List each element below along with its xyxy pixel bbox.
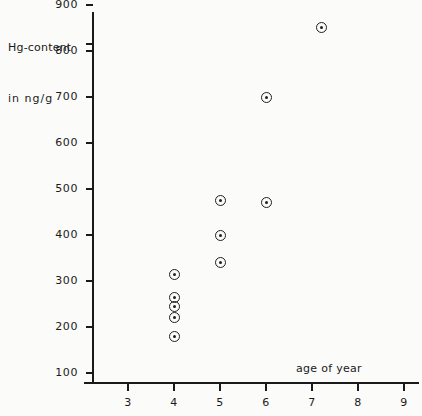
x-tick-8 [357,384,359,391]
data-point [169,312,180,323]
x-tick-label-8: 8 [348,396,368,409]
y-tick-label-600: 600 [34,136,78,149]
data-point [169,269,180,280]
y-tick-700 [86,96,93,98]
x-tick-label-4: 4 [164,396,184,409]
scatter-chart: Hg-content in ng/g age of year 100200300… [0,0,422,416]
y-tick-label-500: 500 [34,182,78,195]
x-tick-label-9: 9 [394,396,414,409]
y-tick-200 [86,326,93,328]
x-axis-line [84,382,419,384]
y-tick-label-200: 200 [34,320,78,333]
x-tick-3 [127,384,129,391]
data-point [169,331,180,342]
data-point [261,197,272,208]
y-tick-label-400: 400 [34,228,78,241]
data-point [215,195,226,206]
data-point [215,230,226,241]
y-tick-900 [86,4,93,6]
x-tick-label-7: 7 [302,396,322,409]
x-tick-label-5: 5 [210,396,230,409]
y-axis-title: Hg-content in ng/g [8,5,71,141]
y-tick-label-100: 100 [34,366,78,379]
data-point [316,22,327,33]
y-tick-top-unlabeled [86,43,93,45]
x-tick-6 [265,384,267,391]
data-point [261,92,272,103]
x-tick-label-6: 6 [256,396,276,409]
x-tick-4 [173,384,175,391]
data-point [169,301,180,312]
x-axis-title: age of year [296,362,362,375]
x-tick-5 [219,384,221,391]
x-tick-7 [311,384,313,391]
data-point [215,257,226,268]
y-tick-400 [86,234,93,236]
y-tick-label-800: 800 [34,44,78,57]
y-tick-600 [86,142,93,144]
y-tick-800 [86,50,93,52]
y-tick-300 [86,280,93,282]
y-axis-line [92,12,94,384]
y-tick-500 [86,188,93,190]
y-tick-label-700: 700 [34,90,78,103]
x-tick-label-3: 3 [118,396,138,409]
y-tick-label-300: 300 [34,274,78,287]
x-tick-9 [403,384,405,391]
y-tick-100 [86,372,93,374]
y-tick-label-900: 900 [34,0,78,11]
